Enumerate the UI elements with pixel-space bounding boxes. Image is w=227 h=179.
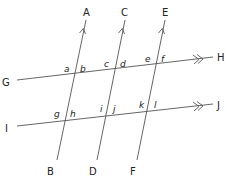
angle-label-l: l bbox=[154, 100, 157, 110]
point-label-b: B bbox=[47, 166, 54, 177]
line-gh bbox=[17, 57, 213, 80]
line-ef bbox=[137, 20, 165, 160]
angle-label-g: g bbox=[54, 109, 60, 119]
line-cd bbox=[97, 20, 125, 160]
angle-label-a: a bbox=[64, 64, 70, 74]
angle-label-h: h bbox=[70, 109, 76, 119]
angle-label-i: i bbox=[100, 104, 103, 114]
arrow-marker-ab-icon bbox=[80, 29, 86, 35]
point-label-j: J bbox=[216, 100, 220, 111]
point-label-a: A bbox=[83, 7, 90, 18]
arrow-marker-cd-icon bbox=[119, 29, 125, 35]
line-ab bbox=[57, 20, 86, 160]
point-label-f: F bbox=[130, 166, 136, 177]
angle-label-j: j bbox=[111, 104, 116, 114]
point-label-d: D bbox=[89, 166, 97, 177]
angle-label-k: k bbox=[139, 100, 145, 110]
point-label-e: E bbox=[162, 7, 168, 18]
arrow-marker-ef-icon bbox=[159, 29, 165, 35]
point-label-i: I bbox=[5, 123, 8, 134]
angle-label-d: d bbox=[120, 59, 126, 69]
point-label-h: H bbox=[217, 52, 225, 63]
angle-label-e: e bbox=[145, 54, 151, 64]
angle-label-c: c bbox=[104, 59, 109, 69]
point-label-c: C bbox=[121, 7, 128, 18]
point-label-g: G bbox=[2, 77, 10, 88]
angle-label-b: b bbox=[80, 64, 86, 74]
diagram-canvas: A C E G H I J B D F a b c d e f g h i j … bbox=[0, 0, 227, 179]
